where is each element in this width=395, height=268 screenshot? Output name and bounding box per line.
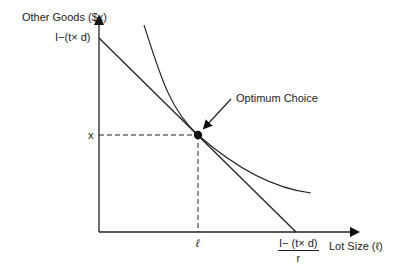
optimum-annotation: Optimum Choice	[236, 92, 318, 104]
optimum-x-label: ℓ	[196, 237, 200, 249]
x-axis-label: Lot Size (ℓ)	[329, 240, 383, 252]
annotation-arrow	[206, 99, 231, 126]
indifference-curve	[144, 25, 311, 193]
y-axis-label: Other Goods ($x)	[22, 11, 107, 23]
x-intercept-denominator: r	[278, 251, 319, 264]
x-intercept-label: I− (t× d) r	[278, 237, 319, 264]
optimum-point	[194, 131, 202, 139]
x-intercept-numerator: I− (t× d)	[278, 237, 319, 251]
optimum-y-label: x	[88, 129, 94, 141]
y-intercept-label: I−(t× d)	[55, 31, 90, 43]
